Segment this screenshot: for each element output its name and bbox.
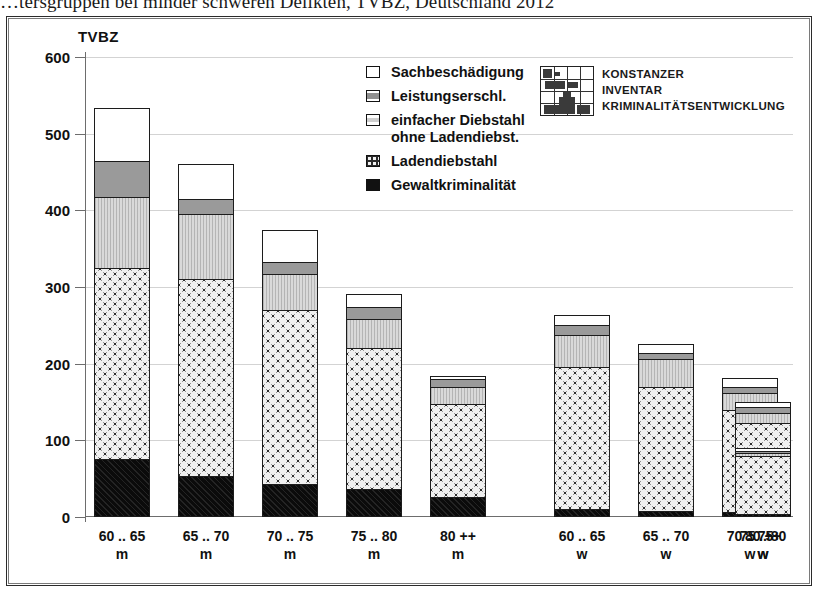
x-axis-label-range: 65 .. 70 bbox=[183, 528, 230, 544]
y-axis-title: TVBZ bbox=[78, 28, 119, 45]
bar bbox=[346, 294, 402, 517]
logo-text: KONSTANZER INVENTAR KRIMINALITÄTSENTWICK… bbox=[602, 66, 785, 114]
legend-item: Gewaltkriminalität bbox=[366, 177, 525, 194]
kik-logo: KONSTANZER INVENTAR KRIMINALITÄTSENTWICK… bbox=[540, 66, 785, 116]
legend-item: Sachbeschädigung bbox=[366, 64, 525, 81]
bar-segment-gewaltkriminalitaet bbox=[430, 497, 486, 517]
y-axis-tick bbox=[75, 364, 85, 365]
bar bbox=[262, 230, 318, 517]
bar bbox=[430, 376, 486, 517]
bar-segment-ladendiebstahl bbox=[346, 348, 402, 490]
legend-item-label: Sachbeschädigung bbox=[391, 64, 524, 81]
y-axis-tick bbox=[75, 440, 85, 441]
bar-segment-ladendiebstahl bbox=[638, 387, 694, 511]
legend-swatch-leist-icon bbox=[366, 90, 380, 102]
x-axis-label-sex: m bbox=[334, 545, 414, 563]
legend: SachbeschädigungLeistungserschl.einfache… bbox=[366, 64, 525, 201]
bar-segment-einfacher-diebstahl bbox=[735, 413, 791, 424]
y-axis-tick bbox=[75, 57, 85, 58]
bar-segment-leistungserschleichung bbox=[346, 307, 402, 319]
bar-segment-sachbeschaedigung bbox=[554, 315, 610, 325]
bar bbox=[178, 164, 234, 517]
bar-segment-sachbeschaedigung bbox=[346, 294, 402, 307]
legend-swatch-sach-icon bbox=[366, 66, 380, 78]
x-axis-label-sex: m bbox=[166, 545, 246, 563]
x-axis-label-range: 65 .. 70 bbox=[643, 528, 690, 544]
bar-segment-einfacher-diebstahl bbox=[638, 359, 694, 387]
bar-segment-gewaltkriminalitaet bbox=[262, 484, 318, 517]
legend-item-label: Ladendiebstahl bbox=[391, 153, 497, 170]
x-axis-label-range: 60 .. 65 bbox=[99, 528, 146, 544]
x-axis-tick-label: 80 ++m bbox=[418, 527, 498, 563]
bar-segment-gewaltkriminalitaet bbox=[346, 489, 402, 517]
figure-title: …tersgruppen bei minder schweren Delikte… bbox=[0, 0, 819, 13]
bar-segment-einfacher-diebstahl bbox=[94, 197, 150, 268]
x-axis-label-sex: m bbox=[82, 545, 162, 563]
logo-line-3: KRIMINALITÄTSENTWICKLUNG bbox=[602, 98, 785, 114]
bar-segment-leistungserschleichung bbox=[430, 379, 486, 387]
y-axis-tick-label: 0 bbox=[62, 509, 70, 526]
bar-segment-sachbeschaedigung bbox=[262, 230, 318, 261]
bar bbox=[638, 344, 694, 517]
bar-segment-sachbeschaedigung bbox=[94, 108, 150, 160]
bar-segment-ladendiebstahl bbox=[554, 367, 610, 510]
legend-item: Ladendiebstahl bbox=[366, 153, 525, 170]
bar-segment-gewaltkriminalitaet bbox=[94, 459, 150, 517]
y-axis-tick-label: 600 bbox=[45, 49, 70, 66]
x-axis-tick-label: 60 .. 65w bbox=[542, 527, 622, 563]
x-axis-label-range: 80 ++ bbox=[440, 528, 476, 544]
bar-segment-ladendiebstahl bbox=[735, 456, 791, 514]
x-axis-tick-label: 65 .. 70m bbox=[166, 527, 246, 563]
legend-swatch-gewalt-icon bbox=[366, 179, 380, 191]
x-axis-tick-label: 80 ++w bbox=[723, 527, 803, 563]
bar-segment-leistungserschleichung bbox=[178, 199, 234, 214]
x-axis-label-range: 70 .. 75 bbox=[267, 528, 314, 544]
legend-item-label: Leistungserschl. bbox=[391, 88, 506, 105]
x-axis-label-range: 75 .. 80 bbox=[351, 528, 398, 544]
y-axis-tick-label: 500 bbox=[45, 125, 70, 142]
bar-segment-sachbeschaedigung bbox=[722, 378, 778, 386]
bar-segment-ladendiebstahl bbox=[94, 268, 150, 459]
y-axis-tick-label: 200 bbox=[45, 355, 70, 372]
bar bbox=[554, 315, 610, 517]
y-axis-tick bbox=[75, 517, 85, 518]
logo-line-2: INVENTAR bbox=[602, 82, 785, 98]
x-axis-tick-label: 75 .. 80m bbox=[334, 527, 414, 563]
x-axis-label-sex: m bbox=[250, 545, 330, 563]
bar bbox=[735, 448, 791, 517]
x-axis-label-sex: w bbox=[723, 545, 803, 563]
bar-segment-leistungserschleichung bbox=[262, 262, 318, 274]
legend-item-label: Gewaltkriminalität bbox=[391, 177, 516, 194]
bar-segment-einfacher-diebstahl bbox=[346, 319, 402, 347]
legend-item: einfacher Diebstahlohne Ladendiebst. bbox=[366, 112, 525, 146]
bar-segment-ladendiebstahl bbox=[262, 310, 318, 484]
legend-swatch-einf-icon bbox=[366, 114, 380, 126]
x-axis-tick-label: 70 .. 75m bbox=[250, 527, 330, 563]
x-axis-label-sex: m bbox=[418, 545, 498, 563]
bar-segment-gewaltkriminalitaet bbox=[638, 511, 694, 517]
y-axis-tick-label: 400 bbox=[45, 202, 70, 219]
y-axis-tick bbox=[75, 134, 85, 135]
chart-figure: …tersgruppen bei minder schweren Delikte… bbox=[0, 0, 819, 593]
legend-swatch-laden-icon bbox=[366, 155, 380, 167]
bar-segment-einfacher-diebstahl bbox=[262, 274, 318, 310]
bar-segment-sachbeschaedigung bbox=[638, 344, 694, 353]
bar-segment-gewaltkriminalitaet bbox=[735, 514, 791, 517]
y-axis-tick bbox=[75, 287, 85, 288]
bar-segment-gewaltkriminalitaet bbox=[554, 509, 610, 517]
bar-segment-gewaltkriminalitaet bbox=[178, 476, 234, 517]
y-axis-tick-label: 300 bbox=[45, 279, 70, 296]
bar-segment-leistungserschleichung bbox=[554, 325, 610, 334]
bar-segment-einfacher-diebstahl bbox=[430, 387, 486, 405]
x-axis-label-sex: w bbox=[542, 545, 622, 563]
bar bbox=[94, 108, 150, 517]
logo-line-1: KONSTANZER bbox=[602, 66, 785, 82]
bar-segment-leistungserschleichung bbox=[94, 161, 150, 198]
bar-segment-ladendiebstahl bbox=[178, 279, 234, 475]
x-axis-label-sex: w bbox=[626, 545, 706, 563]
legend-item-label-line2: ohne Ladendiebst. bbox=[391, 129, 525, 146]
x-axis-label-range: 60 .. 65 bbox=[559, 528, 606, 544]
bar-segment-sachbeschaedigung bbox=[178, 164, 234, 199]
legend-item-label: einfacher Diebstahlohne Ladendiebst. bbox=[391, 112, 525, 146]
logo-grid-icon bbox=[540, 66, 594, 116]
